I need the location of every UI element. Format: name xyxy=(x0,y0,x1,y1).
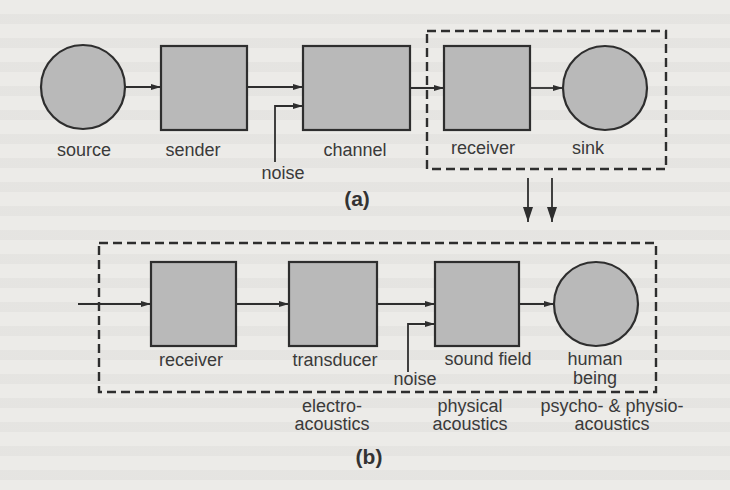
sink-label: sink xyxy=(572,139,604,158)
human-label-line2: being xyxy=(573,369,617,388)
receiver-label-a: receiver xyxy=(451,139,515,158)
source-label: source xyxy=(57,141,111,160)
domain-physical-line2: acoustics xyxy=(432,415,507,434)
sender-node xyxy=(161,46,247,130)
domain-psycho-line2: acoustics xyxy=(574,415,649,434)
receiver-label-b: receiver xyxy=(159,351,223,370)
arrow-noise-channel xyxy=(275,106,302,162)
channel-node xyxy=(303,46,410,130)
channel-label: channel xyxy=(323,141,386,160)
receiver-node-a xyxy=(444,46,530,130)
human-being-node xyxy=(554,262,638,346)
receiver-node-b xyxy=(151,262,236,346)
domain-electro-line2: acoustics xyxy=(294,415,369,434)
sound-field-label: sound field xyxy=(444,350,531,369)
caption-b: (b) xyxy=(356,445,383,469)
transducer-node xyxy=(289,262,377,346)
caption-a: (a) xyxy=(344,187,370,211)
sink-node xyxy=(563,46,647,130)
sender-label: sender xyxy=(165,141,220,160)
human-label-line1: human xyxy=(567,350,622,369)
noise-label-a: noise xyxy=(261,164,304,183)
noise-label-b: noise xyxy=(393,370,436,389)
source-node xyxy=(41,45,125,129)
arrow-noise-soundfield xyxy=(408,324,434,372)
sound-field-node xyxy=(435,262,519,346)
transducer-label: transducer xyxy=(292,351,377,370)
